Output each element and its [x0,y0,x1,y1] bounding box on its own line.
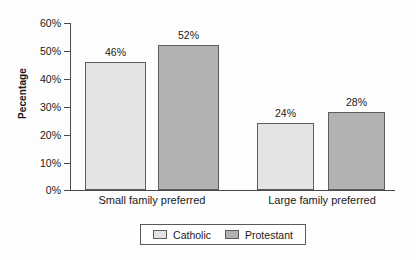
bar-chart-figure: Pecentage 60% 50% 40% 30% 20% 10% 0% [0,0,416,260]
x-axis-line [70,190,395,191]
y-tick-label: 10% [5,157,61,169]
x-category-label-large-family: Large family preferred [252,194,392,206]
y-tick-label: 0% [5,184,61,196]
y-tick-label: 50% [5,45,61,57]
y-axis-title: Pecentage [17,50,28,138]
legend-swatch-icon-catholic [153,230,167,239]
y-tick-label: 60% [5,17,61,29]
bar-protestant-small-family [158,45,219,190]
y-tick-label: 40% [5,73,61,85]
y-tick-label: 20% [5,129,61,141]
chart-legend: Catholic Protestant [140,224,306,245]
bar-value-label: 28% [328,96,385,108]
x-category-label-small-family: Small family preferred [82,194,222,206]
legend-label-catholic: Catholic [173,229,211,241]
legend-entry-protestant: Protestant [225,229,293,241]
legend-entry-catholic: Catholic [153,229,211,241]
bar-value-label: 52% [158,29,219,41]
bar-value-label: 46% [85,46,146,58]
y-tick-label: 30% [5,101,61,113]
legend-label-protestant: Protestant [245,229,293,241]
y-axis-line [70,23,71,191]
bar-value-label: 24% [257,107,314,119]
bar-catholic-large-family [257,123,314,190]
bar-protestant-large-family [328,112,385,190]
bar-catholic-small-family [85,62,146,190]
legend-swatch-icon-protestant [225,230,239,239]
